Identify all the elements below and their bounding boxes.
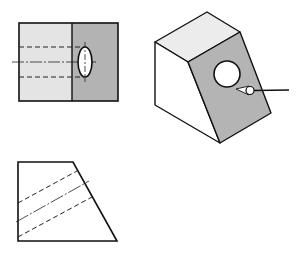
viewing-direction-line	[254, 90, 289, 91]
viewing-eye-icon	[246, 87, 254, 95]
side-view	[16, 162, 117, 241]
front-view	[12, 23, 118, 101]
isometric-view	[155, 12, 289, 143]
projection-diagram	[0, 0, 305, 258]
iso-hole	[214, 61, 240, 87]
